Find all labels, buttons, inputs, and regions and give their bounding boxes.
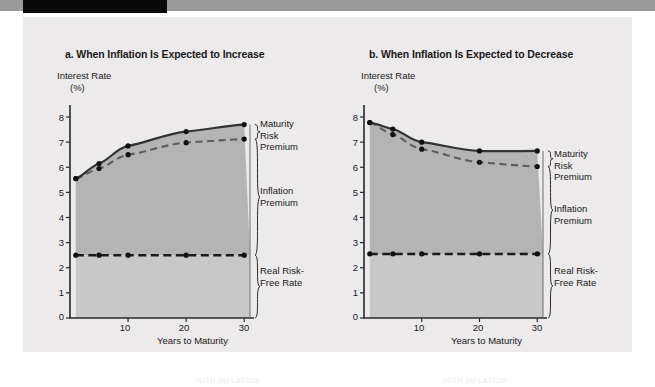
chart-b-brace-real-risk-free-rate — [548, 254, 553, 318]
chart-b-inflation-premium-band — [370, 123, 543, 254]
chart-a-expected-point-20 — [184, 140, 189, 145]
chart-b-realrf-point-30 — [535, 251, 540, 256]
bottom-ghost-text-left: WITH INFLATION — [196, 377, 260, 384]
bottom-white-strip — [0, 368, 655, 387]
chart-a-nominal-point-10 — [125, 143, 130, 148]
chart-b-expected-point-5 — [390, 132, 395, 137]
chart-b-expected-point-30 — [535, 164, 540, 169]
chart-a-expected-point-10 — [125, 152, 130, 157]
chart-a-real-risk-free-band — [76, 255, 250, 318]
chart-a-expected-point-1 — [73, 176, 78, 181]
chart-b-realrf-point-1 — [367, 251, 372, 256]
chart-a-brace-inflation-premium — [255, 139, 260, 255]
chart-b-realrf-point-10 — [419, 251, 424, 256]
chart-b-nominal-point-10 — [419, 140, 424, 145]
chart-a-brace-real-risk-free-rate — [255, 255, 260, 318]
chart-a-realrf-point-5 — [96, 253, 101, 258]
chart-b-real-risk-free-band — [370, 254, 543, 318]
chart-b-nominal-point-5 — [390, 126, 395, 131]
chart-a-nominal-point-20 — [184, 129, 189, 134]
chart-b-brace-maturity-risk-premium — [548, 151, 553, 167]
chart-b-realrf-point-20 — [477, 251, 482, 256]
chart-a-inflation-premium-band — [76, 125, 250, 256]
chart-a-expected-point-30 — [242, 137, 247, 142]
chart-b-realrf-point-5 — [390, 251, 395, 256]
chart-b-expected-point-1 — [367, 120, 372, 125]
chart-a-expected-point-5 — [96, 166, 101, 171]
chart-plot-area — [0, 0, 655, 387]
chart-b-brace-inflation-premium — [548, 166, 553, 253]
chart-a-realrf-point-10 — [125, 253, 130, 258]
chart-a-brace-maturity-risk-premium — [255, 125, 260, 140]
chart-b-nominal-point-30 — [535, 148, 540, 153]
chart-a-realrf-point-1 — [73, 253, 78, 258]
chart-a-nominal-point-5 — [96, 161, 101, 166]
chart-b-expected-point-10 — [419, 147, 424, 152]
bottom-ghost-text-right: WITH INFLATION — [443, 377, 507, 384]
chart-b-expected-point-20 — [477, 160, 482, 165]
chart-a-realrf-point-20 — [184, 253, 189, 258]
chart-a-realrf-point-30 — [242, 253, 247, 258]
chart-a-nominal-point-30 — [242, 122, 247, 127]
chart-b-nominal-point-20 — [477, 148, 482, 153]
